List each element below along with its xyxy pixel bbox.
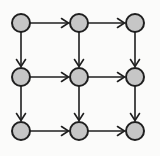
graph-node-n10 [12, 68, 30, 86]
graph-node-n20 [12, 122, 30, 140]
grid-graph-svg [0, 0, 160, 156]
graph-node-n11 [70, 68, 88, 86]
graph-node-n21 [70, 122, 88, 140]
graph-node-n00 [12, 14, 30, 32]
graph-node-n02 [126, 14, 144, 32]
graph-node-n01 [70, 14, 88, 32]
graph-node-n22 [126, 122, 144, 140]
grid-graph-diagram [0, 0, 160, 156]
graph-node-n12 [126, 68, 144, 86]
